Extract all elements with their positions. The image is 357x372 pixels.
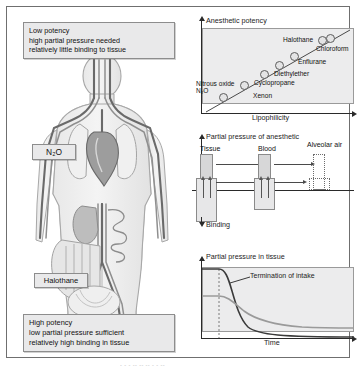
low-potency-line2: high partial pressure needed [29,36,169,46]
tag-nitrous-oxide-label: N₂O [46,147,62,157]
p2-flow-blood-to-alveolar-upper [274,164,312,165]
figure-page: Low potency high partial pressure needed… [0,0,357,372]
p1-label-xenon: Xenon [253,92,272,100]
p3-curves-svg [192,247,357,359]
p2-uparrow-tissue-b [210,178,211,198]
left-column-anatomy: Low potency high partial pressure needed… [14,14,186,364]
p3-annotation-termination-of-intake: Termination of intake [250,272,315,281]
figure-caption: - - - -- -- -- - - -- [120,362,300,370]
low-potency-callout: Low potency high partial pressure needed… [23,22,175,59]
p2-uparrow-blood-a [261,178,262,198]
p1-point-xenon[interactable] [240,81,249,90]
p2-label-blood: Blood [258,145,276,154]
p2-uphead-blood-a [259,176,263,180]
p2-bar-blood-binding [254,178,275,210]
p2-binding-axis-arrowhead [199,222,205,227]
chart-partial-pressure-of-anesthetic: Partial pressure of anesthetic Tissue Bl… [192,133,357,239]
p2-uparrow-blood-b [268,178,269,198]
figure-frame: Low potency high partial pressure needed… [6,6,350,358]
p1-point-nitrous-oxide[interactable] [219,93,228,102]
p2-title: Partial pressure of anesthetic [206,133,299,142]
p1-point-cyclopropane[interactable] [260,70,269,79]
chart-anesthetic-potency: Anesthetic potency Lipophilicity Nitrous… [192,17,357,122]
human-circulatory-system-illustration [32,54,172,334]
p1-label-chloroform: Chloroform [316,45,349,53]
p2-uphead-tissue-a [201,176,205,180]
p2-y-axis-arrowhead [199,134,205,139]
p1-label-diethylether: Diethylether [274,70,309,78]
p2-uphead-blood-b [266,176,270,180]
p2-bar-alveolar-binding [309,178,330,190]
anatomy-svg [32,54,172,334]
p1-label-cyclopropane: Cyclopropane [254,79,295,87]
low-potency-line3: relatively little binding to tissue [29,45,169,55]
tag-nitrous-oxide: N₂O [32,144,76,160]
chart-partial-pressure-in-tissue: Partial pressure in tissue Time Terminat… [192,247,357,359]
p2-label-tissue: Tissue [200,145,220,154]
p1-point-diethylether[interactable] [275,61,284,70]
p1-label-enflurane: Enflurane [298,58,326,66]
high-potency-line3: relatively high binding in tissue [29,338,169,348]
low-potency-line1: Low potency [29,26,169,36]
p2-uphead-tissue-b [208,176,212,180]
p1-label-nitrous-oxide-formula: N₂O [196,87,208,95]
high-potency-line2: low partial pressure sufficient [29,328,169,338]
p2-binding-label: Binding [206,221,230,230]
tag-halothane-label: Halothane [44,276,79,285]
p1-label-halothane: Halothane [283,36,313,44]
p2-flow-tissue-to-blood-upper [216,164,260,165]
p1-point-chloroform[interactable] [326,34,335,43]
p2-bar-tissue-binding [196,178,217,222]
high-potency-line1: High potency [29,318,169,328]
p2-flow-blood-to-alveolar-lower [274,182,304,183]
tag-halothane: Halothane [34,273,88,288]
p2-label-alveolar-air: Alveolar air [307,141,342,150]
p2-flowhead-blood-to-alveolar-lower [303,180,307,184]
high-potency-callout: High potency low partial pressure suffic… [23,314,175,352]
p2-uparrow-tissue-a [203,178,204,198]
